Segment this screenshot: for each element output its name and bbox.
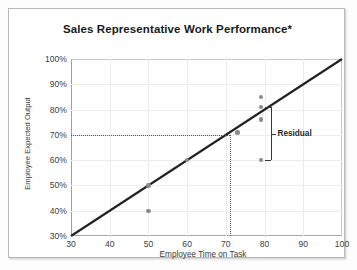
data-point [259,117,263,121]
chart-frame: Sales Representative Work Performance* E… [8,8,345,258]
y-axis-title: Employee Expected Output [23,64,32,224]
y-tick-label: 70% [50,130,67,140]
data-point [146,209,150,213]
x-tick-label: 90 [299,239,309,249]
y-tick-label: 60% [50,155,67,165]
residual-label: Residual [278,129,312,138]
y-tick-label: 50% [50,180,67,190]
y-tick-label: 40% [50,206,67,216]
data-point [259,95,263,99]
chart-title: Sales Representative Work Performance* [9,23,346,35]
x-tick-label: 30 [66,239,76,249]
residual-bracket-bottom-arm [265,160,271,161]
x-tick-label: 50 [144,239,154,249]
reference-line-vertical [230,135,231,236]
x-tick-label: 60 [182,239,192,249]
x-tick-label: 40 [105,239,115,249]
x-tick-label: 80 [260,239,270,249]
y-tick-label: 80% [50,105,67,115]
trend-line [71,59,342,236]
x-axis-title: Employee Time on Task [63,250,343,259]
y-tick-label: 30% [50,231,67,241]
data-point [146,183,150,187]
y-tick-label: 100% [45,54,67,64]
x-tick-label: 100 [335,239,349,249]
plot-area: 30%40%50%60%70%80%90%100% 30405060708090… [71,59,342,236]
chart-screenshot: Sales Representative Work Performance* E… [0,0,357,270]
x-tick-label: 70 [221,239,231,249]
residual-bracket-mid-tick [271,134,276,135]
data-point [259,105,263,109]
y-tick-label: 90% [50,79,67,89]
data-point [235,130,239,134]
residual-bracket-top-arm [265,107,271,108]
reference-line-horizontal [71,135,230,136]
